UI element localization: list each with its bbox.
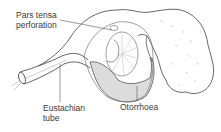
label-eustachian-tube: Eustachian tube: [43, 103, 85, 123]
mastoid-air-cells: [118, 9, 214, 93]
leader-pars-tensa: [60, 20, 112, 30]
label-pars-tensa-perforation: Pars tensa perforation: [16, 10, 57, 30]
label-otorrhoea: Otorrhoea: [120, 102, 158, 112]
ear-diagram: Pars tensa perforation Eustachian tube O…: [0, 0, 221, 132]
eustachian-tube-lower: [24, 62, 90, 84]
eustachian-tube-opening: [17, 71, 27, 84]
